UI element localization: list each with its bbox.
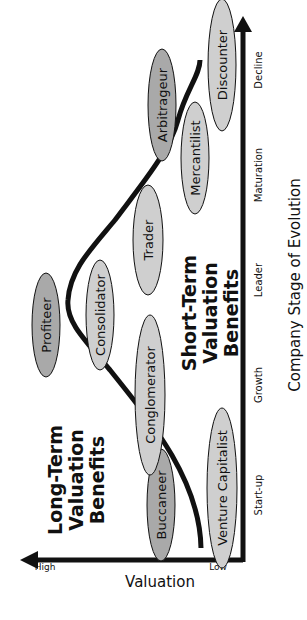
stage-maturation: Maturation <box>253 148 264 202</box>
role-label: Profiteer <box>39 297 54 353</box>
x-axis-label: Company Stage of Evolution <box>286 178 304 391</box>
long-term-line3: Benefits <box>86 436 108 524</box>
role-label: Buccaneer <box>154 470 169 540</box>
role-mercantilist: Mercantilist <box>181 102 209 214</box>
role-trader: Trader <box>133 185 163 295</box>
role-label: Discounter <box>215 29 230 100</box>
role-venture-capitalist: Venture Capitalist <box>207 408 237 568</box>
short-term-label: Short-Term Valuation Benefits <box>178 255 242 371</box>
long-term-line2: Valuation <box>65 429 87 531</box>
role-label: Arbitrageur <box>155 67 170 142</box>
long-term-label: Long-Term Valuation Benefits <box>44 425 108 535</box>
role-label: Trader <box>141 219 156 262</box>
stage-start-up: Start-up <box>253 475 264 516</box>
role-consolidator: Consolidator <box>86 260 114 370</box>
y-axis-label: Valuation <box>125 573 195 591</box>
role-discounter: Discounter <box>208 0 236 131</box>
stage-growth: Growth <box>253 367 264 403</box>
stage-leader: Leader <box>253 262 264 297</box>
short-term-line3: Benefits <box>220 269 242 357</box>
short-term-line1: Short-Term <box>178 255 200 371</box>
long-term-line1: Long-Term <box>44 425 66 535</box>
role-label: Venture Capitalist <box>215 430 230 546</box>
role-conglomerator: Conglomerator <box>135 315 165 475</box>
y-axis-high: High <box>35 562 56 572</box>
x-axis-stages: Start-up Growth Leader Maturation Declin… <box>253 51 264 515</box>
rotated-diagram: Valuation High Low Start-up Growth Leade… <box>0 0 307 620</box>
role-label: Mercantilist <box>188 120 203 195</box>
role-label: Consolidator <box>93 273 108 355</box>
role-arbitrageur: Arbitrageur <box>148 49 176 161</box>
role-label: Conglomerator <box>143 346 158 444</box>
role-profiteer: Profiteer <box>32 273 60 377</box>
x-axis-arrow-icon <box>234 16 252 32</box>
stage-decline: Decline <box>253 51 264 88</box>
short-term-line2: Valuation <box>199 262 221 364</box>
